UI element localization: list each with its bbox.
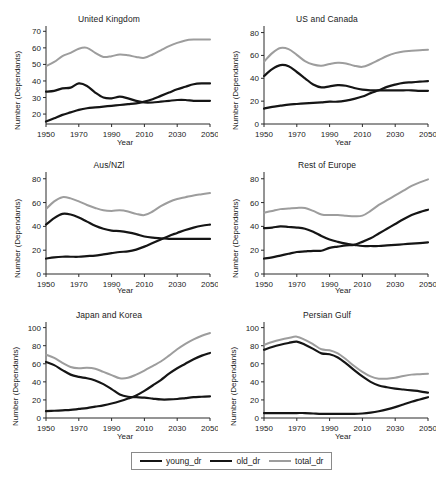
- svg-text:0: 0: [255, 120, 260, 129]
- panel-persian-gulf: Persian Gulf Number (Dependants) 0204060…: [218, 310, 436, 444]
- svg-text:60: 60: [32, 199, 41, 208]
- plot-area: 020406080100195019701990201020302050: [218, 310, 436, 444]
- svg-text:40: 40: [250, 222, 259, 231]
- svg-text:20: 20: [250, 396, 259, 405]
- plot-area: 020406080195019701990201020302050: [0, 160, 218, 300]
- legend-line-young-dr: [140, 460, 162, 462]
- svg-text:80: 80: [32, 342, 41, 351]
- x-axis-label: Year: [40, 138, 210, 147]
- svg-text:20: 20: [32, 246, 41, 255]
- svg-text:60: 60: [32, 360, 41, 369]
- svg-text:0: 0: [255, 414, 260, 423]
- svg-text:40: 40: [250, 74, 259, 83]
- svg-text:80: 80: [250, 175, 259, 184]
- x-axis-label: Year: [258, 286, 428, 295]
- legend-item-young-dr: young_dr: [140, 456, 201, 466]
- svg-text:20: 20: [32, 396, 41, 405]
- svg-text:40: 40: [250, 378, 259, 387]
- plot-area: 203040506070195019701990201020302050: [0, 14, 218, 150]
- svg-text:80: 80: [250, 29, 259, 38]
- svg-text:0: 0: [37, 270, 42, 279]
- panel-rest-of-europe: Rest of Europe Number (Dependants) 02040…: [218, 160, 436, 300]
- panel-aus-nzl: Aus/NZl Number (Dependants) 020406080195…: [0, 160, 218, 300]
- legend-label-young-dr: young_dr: [166, 456, 201, 466]
- svg-text:60: 60: [32, 44, 41, 53]
- plot-area: 020406080100195019701990201020302050: [0, 310, 218, 444]
- svg-text:30: 30: [32, 94, 41, 103]
- svg-text:20: 20: [250, 246, 259, 255]
- legend-line-old-dr: [210, 460, 232, 462]
- x-axis-label: Year: [40, 286, 210, 295]
- svg-text:70: 70: [32, 27, 41, 36]
- svg-text:60: 60: [250, 199, 259, 208]
- svg-text:20: 20: [32, 110, 41, 119]
- svg-text:60: 60: [250, 51, 259, 60]
- svg-text:50: 50: [32, 60, 41, 69]
- svg-text:40: 40: [32, 77, 41, 86]
- svg-text:0: 0: [37, 414, 42, 423]
- legend-label-old-dr: old_dr: [236, 456, 260, 466]
- svg-text:60: 60: [250, 360, 259, 369]
- plot-area: 020406080195019701990201020302050: [218, 14, 436, 150]
- panel-united-kingdom: United Kingdom Number (Dependants) 20304…: [0, 14, 218, 150]
- legend-label-total-dr: total_dr: [295, 456, 323, 466]
- plot-area: 020406080195019701990201020302050: [218, 160, 436, 300]
- x-axis-label: Year: [258, 138, 428, 147]
- figure-root: United Kingdom Number (Dependants) 20304…: [0, 0, 436, 483]
- svg-text:0: 0: [255, 270, 260, 279]
- svg-text:100: 100: [246, 324, 260, 333]
- x-axis-label: Year: [258, 432, 428, 441]
- legend-item-total-dr: total_dr: [269, 456, 323, 466]
- legend-line-total-dr: [269, 460, 291, 462]
- svg-text:40: 40: [32, 222, 41, 231]
- panel-japan-and-korea: Japan and Korea Number (Dependants) 0204…: [0, 310, 218, 444]
- svg-text:80: 80: [250, 342, 259, 351]
- legend-item-old-dr: old_dr: [210, 456, 260, 466]
- svg-text:80: 80: [32, 175, 41, 184]
- svg-text:20: 20: [250, 97, 259, 106]
- x-axis-label: Year: [40, 432, 210, 441]
- svg-text:40: 40: [32, 378, 41, 387]
- panel-us-and-canada: US and Canada Number (Dependants) 020406…: [218, 14, 436, 150]
- legend: young_dr old_dr total_dr: [131, 452, 332, 470]
- svg-text:100: 100: [28, 324, 42, 333]
